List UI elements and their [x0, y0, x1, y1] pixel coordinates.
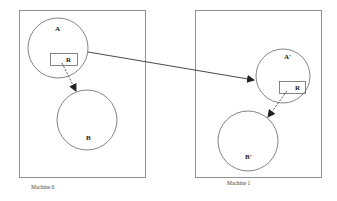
ref-arrow-a-prime-to-b-prime [268, 91, 287, 117]
ref-box-a-prime [280, 82, 306, 94]
migration-arrow [88, 52, 254, 80]
machine-0-box [20, 11, 146, 178]
ref-label-a: R [66, 56, 72, 64]
machine-1-caption: Machine 1 [227, 180, 251, 186]
machine-0-caption: Machine 0 [31, 184, 55, 190]
migration-diagram: A R B Machine 0 A' R B' Machine 1 [0, 0, 337, 201]
machine-1: A' R B' Machine 1 [196, 11, 322, 187]
ref-box-a [51, 54, 78, 66]
machine-0: A R B Machine 0 [20, 11, 146, 191]
process-a-prime-label: A' [284, 53, 291, 61]
process-b-label: B [86, 134, 91, 142]
process-b-prime-circle [218, 111, 278, 171]
process-b-prime-label: B' [245, 153, 252, 161]
ref-label-a-prime: R [295, 84, 301, 92]
process-a-prime-circle [256, 49, 310, 103]
process-a-label: A [55, 25, 60, 33]
